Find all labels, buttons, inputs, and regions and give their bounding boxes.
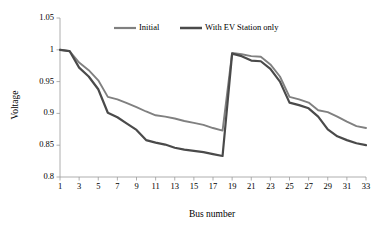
x-tick-label: 5 — [96, 181, 100, 191]
x-tick-label: 13 — [171, 181, 180, 191]
y-axis: 1.0510.950.90.850.8 — [39, 12, 60, 181]
series-line-with-ev-station-only — [60, 50, 366, 156]
x-tick-label: 23 — [266, 181, 275, 191]
x-tick-label: 3 — [77, 181, 81, 191]
y-tick-label: 0.8 — [43, 171, 54, 181]
x-tick-label: 33 — [362, 181, 371, 191]
legend-label: With EV Station only — [205, 22, 279, 32]
x-tick-label: 15 — [190, 181, 199, 191]
series-lines — [60, 50, 366, 156]
x-tick-label: 1 — [58, 181, 62, 191]
y-tick-label: 0.85 — [39, 139, 54, 149]
x-axis-title: Bus number — [189, 209, 236, 219]
legend-label: Initial — [139, 22, 160, 32]
voltage-profile-chart: 1.0510.950.90.850.8 13579111315171921232… — [0, 0, 372, 227]
chart-legend: InitialWith EV Station only — [114, 22, 279, 32]
chart-figure: 1.0510.950.90.850.8 13579111315171921232… — [0, 0, 372, 227]
y-tick-label: 0.9 — [43, 107, 54, 117]
x-tick-label: 9 — [134, 181, 138, 191]
y-tick-label: 1.05 — [39, 12, 54, 22]
x-tick-label: 11 — [152, 181, 160, 191]
x-tick-label: 21 — [247, 181, 256, 191]
y-axis-title: Voltage — [10, 91, 20, 120]
x-tick-label: 29 — [324, 181, 333, 191]
x-tick-label: 19 — [228, 181, 237, 191]
x-tick-label: 7 — [115, 181, 119, 191]
x-tick-label: 31 — [343, 181, 352, 191]
x-tick-label: 27 — [304, 181, 313, 191]
y-tick-label: 0.95 — [39, 76, 54, 86]
x-tick-label: 17 — [209, 181, 218, 191]
x-axis: 13579111315171921232527293133 — [58, 177, 370, 191]
x-tick-label: 25 — [285, 181, 294, 191]
y-tick-label: 1 — [50, 44, 54, 54]
